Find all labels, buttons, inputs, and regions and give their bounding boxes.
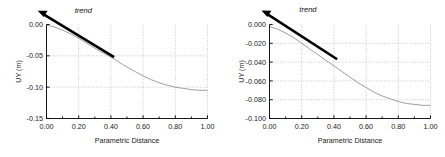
y-tick-label: -0.020	[246, 39, 266, 48]
x-tick-label: 0.20	[295, 122, 309, 131]
line-chart-left: 0.00-0.05-0.10-0.150.000.200.400.600.801…	[0, 0, 222, 157]
tick-marks	[47, 25, 208, 119]
y-axis-title: UY (m)	[237, 60, 246, 83]
data-curve-uy	[47, 25, 208, 90]
x-tick-label: 0.80	[168, 122, 182, 131]
y-tick-label: -0.040	[246, 58, 266, 67]
x-tick-label: 0.80	[391, 122, 405, 131]
y-tick-label: -0.05	[27, 51, 43, 60]
x-tick-label: 0.40	[327, 122, 341, 131]
two-panel-figure: 0.00-0.05-0.10-0.150.000.200.400.600.801…	[0, 0, 445, 157]
trend-annotation: trend	[261, 5, 337, 59]
gridlines	[47, 25, 208, 119]
data-curve-uy	[270, 26, 431, 105]
tick-labels: 0.000-0.020-0.040-0.060-0.080-0.1000.000…	[246, 20, 438, 131]
y-tick-label: -0.10	[27, 83, 43, 92]
y-tick-label: -0.080	[246, 95, 266, 104]
axes	[270, 25, 431, 119]
tick-marks	[270, 25, 431, 119]
x-tick-label: 0.20	[72, 122, 86, 131]
y-tick-label: -0.060	[246, 77, 266, 86]
trend-annotation: trend	[38, 6, 114, 57]
chart-panel-right: 0.000-0.020-0.040-0.060-0.080-0.1000.000…	[222, 0, 445, 157]
x-tick-label: 0.60	[136, 122, 150, 131]
axes	[47, 25, 208, 119]
trend-arrow-shaft	[267, 14, 337, 59]
x-tick-label: 1.00	[424, 122, 438, 131]
x-tick-label: 0.00	[40, 122, 54, 131]
x-tick-label: 0.00	[263, 122, 277, 131]
x-axis-title: Parametric Distance	[318, 136, 383, 145]
y-tick-label: 0.000	[248, 20, 266, 29]
trend-annotation-label: trend	[299, 5, 317, 14]
y-tick-label: 0.00	[29, 20, 43, 29]
y-axis-title: UY (m)	[14, 60, 23, 83]
x-tick-label: 1.00	[201, 122, 215, 131]
line-chart-right: 0.000-0.020-0.040-0.060-0.080-0.1000.000…	[222, 0, 445, 157]
x-tick-label: 0.40	[104, 122, 118, 131]
chart-panel-left: 0.00-0.05-0.10-0.150.000.200.400.600.801…	[0, 0, 222, 157]
gridlines	[270, 25, 431, 119]
tick-labels: 0.00-0.05-0.10-0.150.000.200.400.600.801…	[27, 20, 215, 131]
x-tick-label: 0.60	[359, 122, 373, 131]
x-axis-title: Parametric Distance	[95, 136, 160, 145]
trend-annotation-label: trend	[75, 6, 93, 15]
